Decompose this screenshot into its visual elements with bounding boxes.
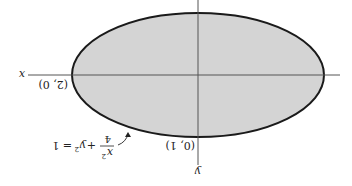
svg-text:4: 4 xyxy=(105,134,111,145)
point-label-2-0: (2, 0) xyxy=(38,78,68,91)
point-label-0-1: (0, 1) xyxy=(165,139,195,152)
arrowhead-icon xyxy=(125,132,131,137)
diagram-canvas: x y (2, 0) (0, 1) x 2 4 + y 2 = 1 xyxy=(0,0,352,186)
ellipse-diagram: x y (2, 0) (0, 1) x 2 4 + y 2 = 1 xyxy=(0,0,352,186)
x-axis-label: x xyxy=(18,68,25,81)
svg-text:x: x xyxy=(106,146,113,159)
ellipse-equation: x 2 4 + y 2 = 1 xyxy=(52,134,114,160)
svg-text:y: y xyxy=(79,139,87,152)
svg-text:+: + xyxy=(87,139,96,152)
svg-text:2: 2 xyxy=(102,152,106,160)
y-axis-label: y xyxy=(194,165,202,178)
svg-text:2: 2 xyxy=(75,145,79,153)
svg-text:= 1: = 1 xyxy=(52,139,72,152)
